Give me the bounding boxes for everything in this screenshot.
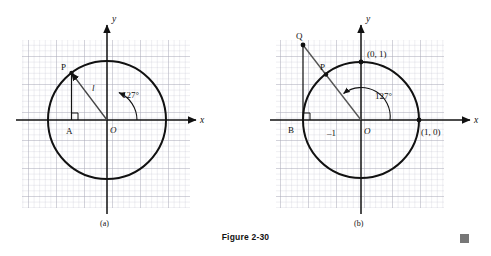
panel-a-point-P-dot: [69, 71, 73, 75]
panel-b-label-left-intercept: –1: [326, 128, 336, 138]
panel-b-point-Q-dot: [301, 43, 306, 48]
panel-a-label-A: A: [66, 126, 73, 136]
panel-b-label-angle: 127°: [375, 91, 393, 101]
gray-square-marker: [459, 233, 470, 244]
panel-b-axis-label-x: x: [473, 115, 479, 125]
panel-a-label-angle: 127°: [122, 90, 140, 100]
figure-drawing: P A O l 127° x y (a): [0, 0, 491, 256]
panel-a-sublabel: (a): [100, 219, 109, 228]
panel-b-axis-label-y: y: [365, 14, 371, 24]
panel-a-axis-label-y: y: [111, 14, 117, 24]
panel-b-label-O: O: [364, 126, 371, 136]
panel-b-point-P-dot: [324, 72, 328, 76]
panel-b-label-B: B: [288, 125, 294, 135]
panel-a-label-P: P: [61, 62, 66, 72]
panel-b-label-top-intercept: (0, 1): [367, 49, 387, 59]
panel-b-label-right-intercept: (1, 0): [421, 127, 441, 137]
figure-2-30: P A O l 127° x y (a): [0, 0, 491, 256]
panel-b-label-P: P: [320, 62, 325, 72]
panel-a-axis-label-x: x: [199, 115, 205, 125]
figure-caption: Figure 2-30: [0, 232, 491, 242]
panel-a: P A O l 127° x y (a): [16, 14, 205, 228]
panel-b: Q P B O (0, 1) (1, 0) –1 127° x y (b): [270, 14, 479, 228]
panel-b-point-top-intercept-dot: [359, 60, 364, 65]
panel-b-sublabel: (b): [354, 219, 364, 228]
panel-b-label-Q: Q: [296, 31, 303, 41]
panel-b-point-right-intercept-dot: [417, 118, 422, 123]
panel-a-label-O: O: [110, 125, 117, 135]
